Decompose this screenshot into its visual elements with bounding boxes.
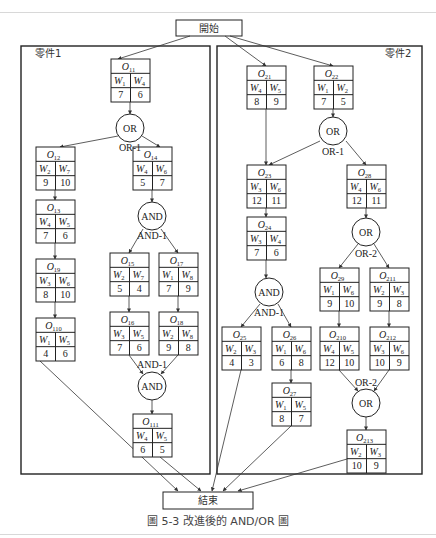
gate-or: OROR-2 bbox=[352, 218, 380, 259]
operation-node-O19: O19W3W6810 bbox=[36, 259, 75, 302]
time-value: 10 bbox=[60, 177, 70, 188]
gate-and: ANDAND-1 bbox=[137, 202, 167, 241]
gate-label: OR-2 bbox=[355, 248, 377, 259]
operation-node-O29: O29W1W6910 bbox=[320, 268, 359, 311]
gate-or: OROR-2 bbox=[352, 377, 380, 418]
operation-node-O24: O24W3W476 bbox=[247, 217, 286, 260]
time-value: 9 bbox=[43, 177, 48, 188]
time-value: 7 bbox=[321, 96, 326, 107]
operation-nodes: O11W1W476O12W2W7910O14W4W657O13W4W576O19… bbox=[36, 59, 409, 473]
time-value: 6 bbox=[279, 357, 284, 368]
time-value: 5 bbox=[341, 96, 346, 107]
time-value: 6 bbox=[274, 247, 279, 258]
time-value: 7 bbox=[117, 342, 122, 353]
gate-and: ANDAND-1 bbox=[254, 278, 284, 318]
gate-type: AND bbox=[141, 211, 163, 222]
time-value: 10 bbox=[352, 460, 362, 471]
operation-node-O211: O211W2W398 bbox=[370, 268, 409, 311]
time-value: 4 bbox=[137, 283, 142, 294]
time-value: 8 bbox=[397, 298, 402, 309]
operation-node-O13: O13W4W576 bbox=[36, 200, 75, 243]
time-value: 12 bbox=[325, 357, 335, 368]
time-value: 6 bbox=[63, 348, 68, 359]
gate-type: AND bbox=[141, 381, 163, 392]
operation-node-O11: O11W1W476 bbox=[111, 59, 150, 102]
end-label: 結束 bbox=[198, 494, 218, 506]
gate-or: OROR-1 bbox=[319, 117, 347, 157]
time-value: 6 bbox=[63, 230, 68, 241]
time-value: 7 bbox=[299, 413, 304, 424]
figure-caption: 圖 5-3 改進後的 AND/OR 圖 bbox=[147, 514, 289, 528]
time-value: 5 bbox=[117, 283, 122, 294]
gate-label: AND-1 bbox=[137, 359, 167, 370]
operation-node-O111: O111W4W565 bbox=[133, 414, 172, 457]
time-value: 9 bbox=[327, 298, 332, 309]
and-or-diagram: 零件1 零件2 開始 結束 圖 5-3 改進後的 AND/OR 圖 bbox=[0, 0, 436, 538]
operation-node-O25: O25W2W343 bbox=[222, 327, 261, 370]
time-value: 7 bbox=[160, 177, 165, 188]
operation-node-O213: O213W2W3109 bbox=[347, 430, 386, 473]
time-value: 10 bbox=[60, 289, 70, 300]
time-value: 8 bbox=[254, 96, 259, 107]
time-value: 9 bbox=[166, 342, 171, 353]
time-value: 9 bbox=[397, 357, 402, 368]
gate-type: AND bbox=[258, 287, 280, 298]
gate-label: OR-1 bbox=[119, 142, 141, 153]
time-value: 6 bbox=[140, 444, 145, 455]
operation-node-O22: O22W1W275 bbox=[314, 66, 353, 109]
time-value: 7 bbox=[43, 230, 48, 241]
time-value: 8 bbox=[43, 289, 48, 300]
operation-node-O23: O23W3W61211 bbox=[247, 165, 286, 208]
operation-node-O21: O21W4W589 bbox=[247, 66, 286, 109]
operation-node-O16: O16W3W576 bbox=[110, 312, 149, 355]
time-value: 5 bbox=[160, 444, 165, 455]
operation-node-O12: O12W2W7910 bbox=[36, 147, 75, 190]
time-value: 11 bbox=[271, 195, 281, 206]
time-value: 9 bbox=[377, 298, 382, 309]
start-node: 開始 bbox=[176, 20, 242, 36]
time-value: 7 bbox=[118, 89, 123, 100]
gate-or: OROR-1 bbox=[116, 114, 144, 153]
time-value: 12 bbox=[252, 195, 262, 206]
gate-type: OR bbox=[123, 123, 137, 134]
gate-label: OR-1 bbox=[322, 146, 344, 157]
operation-node-O17: O17W1W879 bbox=[159, 253, 198, 296]
time-value: 3 bbox=[249, 357, 254, 368]
time-value: 9 bbox=[374, 460, 379, 471]
operation-node-O15: O15W2W754 bbox=[110, 253, 149, 296]
time-value: 4 bbox=[43, 348, 48, 359]
part1-label: 零件1 bbox=[35, 48, 61, 59]
operation-node-O26: O26W1W668 bbox=[272, 327, 311, 370]
time-value: 6 bbox=[138, 89, 143, 100]
gate-type: OR bbox=[326, 126, 340, 137]
gate-type: OR bbox=[359, 398, 373, 409]
gate-label: OR-2 bbox=[355, 377, 377, 388]
time-value: 7 bbox=[254, 247, 259, 258]
gate-and: ANDAND-1 bbox=[137, 359, 167, 401]
time-value: 10 bbox=[344, 357, 354, 368]
time-value: 9 bbox=[274, 96, 279, 107]
time-value: 9 bbox=[186, 283, 191, 294]
time-value: 8 bbox=[186, 342, 191, 353]
part2-label: 零件2 bbox=[385, 48, 411, 59]
time-value: 8 bbox=[299, 357, 304, 368]
operation-node-O210: O210W4W51210 bbox=[320, 327, 359, 370]
operation-node-O14: O14W4W657 bbox=[133, 147, 172, 190]
gate-label: AND-1 bbox=[254, 307, 284, 318]
time-value: 10 bbox=[344, 298, 354, 309]
operation-node-O110: O110W1W546 bbox=[36, 318, 75, 361]
time-value: 11 bbox=[371, 195, 381, 206]
end-node: 結束 bbox=[163, 492, 253, 509]
operation-node-O18: O18W2W898 bbox=[159, 312, 198, 355]
operation-node-O27: O27W1W587 bbox=[272, 383, 311, 426]
time-value: 8 bbox=[279, 413, 284, 424]
time-value: 5 bbox=[140, 177, 145, 188]
operation-node-O28: O28W4W61211 bbox=[347, 165, 386, 208]
gate-type: OR bbox=[359, 227, 373, 238]
operation-node-O212: O212W3W6109 bbox=[370, 327, 409, 370]
time-value: 7 bbox=[166, 283, 171, 294]
time-value: 4 bbox=[229, 357, 234, 368]
time-value: 10 bbox=[375, 357, 385, 368]
time-value: 6 bbox=[137, 342, 142, 353]
time-value: 12 bbox=[352, 195, 362, 206]
